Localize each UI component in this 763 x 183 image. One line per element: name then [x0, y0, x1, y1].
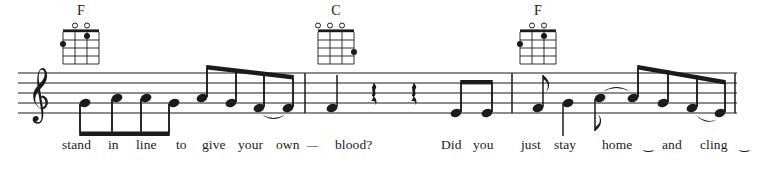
- lyric-syllable: home: [602, 138, 632, 152]
- lyric-syllable: own: [276, 138, 300, 152]
- lyric-syllable: give: [202, 138, 226, 152]
- lyric-syllable: your: [238, 138, 263, 152]
- open-string-circle: [328, 23, 333, 28]
- open-string-circle: [85, 23, 90, 28]
- finger-dot: [541, 33, 547, 39]
- lyric-syllable: just: [521, 138, 541, 152]
- open-string-circle: [316, 23, 321, 28]
- lyric-syllable: cling: [700, 138, 728, 152]
- lyric-syllable: in: [108, 138, 119, 152]
- staff-lines: [18, 73, 737, 113]
- score-canvas: [0, 0, 763, 183]
- chord-diagram-f-2: F: [517, 22, 559, 68]
- treble-clef-icon: [33, 68, 48, 124]
- quarter-rest-r1: [371, 84, 376, 105]
- tie: [603, 87, 630, 92]
- lyric-syllable: —: [307, 140, 318, 151]
- chord-grid: [517, 22, 559, 68]
- quarter-rest-r2: [411, 84, 416, 105]
- lyric-syllable: line: [136, 138, 157, 152]
- beam: [461, 80, 492, 84]
- lyric-syllable: blood?: [335, 138, 372, 152]
- music-staff-system: FCFstandinlinetogiveyourown—blood?Didyou…: [0, 0, 763, 183]
- lyric-syllable: and: [662, 138, 682, 152]
- beam: [638, 65, 725, 84]
- chord-name-label: F: [517, 4, 559, 18]
- note-n9: [325, 75, 338, 114]
- finger-dot: [517, 41, 523, 47]
- beam: [80, 132, 169, 136]
- lyric-syllable: you: [473, 138, 494, 152]
- open-string-circle: [542, 23, 547, 28]
- chord-grid: [315, 22, 357, 68]
- finger-dot: [60, 41, 66, 47]
- note-n13: [561, 97, 574, 136]
- chord-grid: [60, 22, 102, 68]
- lyric-syllable: to: [176, 138, 187, 152]
- finger-dot: [84, 33, 90, 39]
- note-n12: [531, 75, 549, 114]
- lyric-syllable: ‿: [644, 140, 653, 151]
- lyric-syllable: ‿: [740, 140, 749, 151]
- tie: [262, 115, 285, 120]
- beam: [207, 65, 293, 79]
- open-string-circle: [73, 23, 78, 28]
- chord-name-label: F: [60, 4, 102, 18]
- chord-diagram-c-1: C: [315, 22, 357, 68]
- finger-dot: [351, 49, 357, 55]
- notes: [78, 65, 726, 136]
- chord-name-label: C: [315, 4, 357, 18]
- open-string-circle: [530, 23, 535, 28]
- lyric-syllable: stay: [554, 138, 576, 152]
- rests: [371, 84, 416, 105]
- tie: [695, 115, 717, 122]
- lyric-syllable: stand: [62, 138, 91, 152]
- lyric-syllable: Did: [441, 138, 462, 152]
- open-string-circle: [340, 23, 345, 28]
- chord-diagram-f-0: F: [60, 22, 102, 68]
- note-n14: [593, 92, 606, 131]
